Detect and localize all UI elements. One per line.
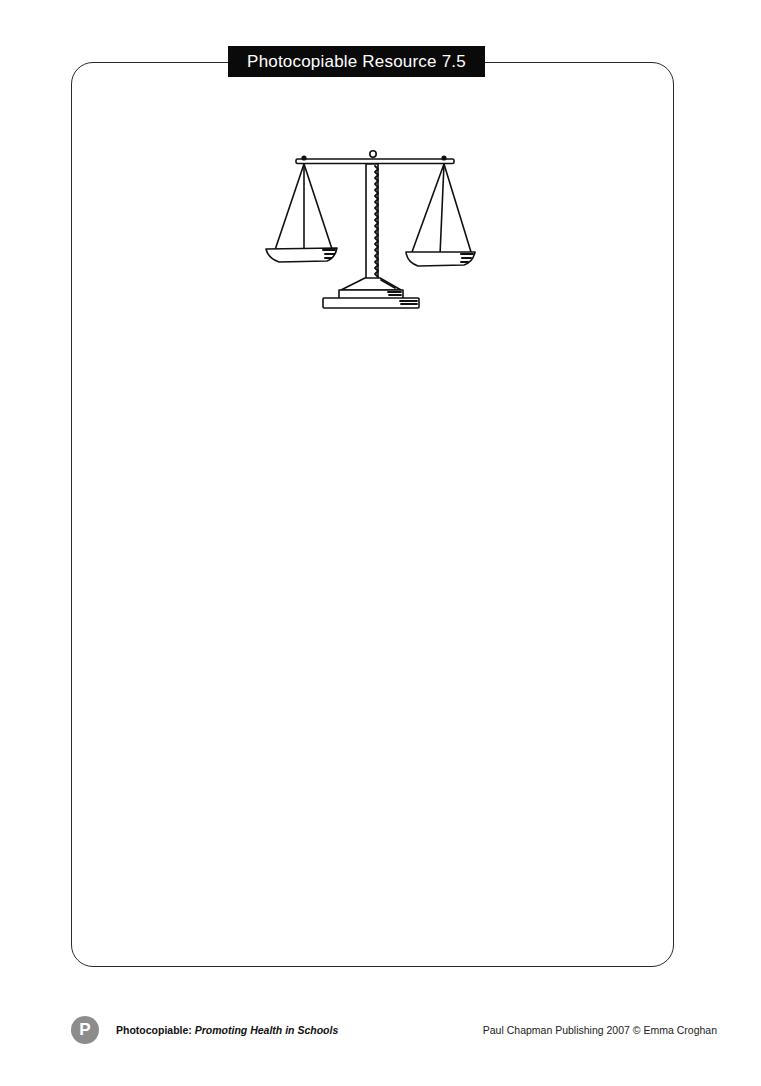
footer-book-credit: Photocopiable: Promoting Health in Schoo… bbox=[116, 1024, 338, 1036]
photocopiable-badge-icon: P bbox=[71, 1016, 99, 1044]
footer-photocopiable-notice: P Photocopiable: Promoting Health in Sch… bbox=[71, 1016, 338, 1044]
resource-label: Photocopiable Resource 7.5 bbox=[228, 46, 485, 77]
footer-copyright: Paul Chapman Publishing 2007 © Emma Crog… bbox=[483, 1024, 717, 1036]
footer-prefix: Photocopiable: bbox=[116, 1024, 195, 1036]
footer-book-title: Promoting Health in Schools bbox=[195, 1024, 339, 1036]
balance-scales-icon bbox=[255, 140, 495, 320]
